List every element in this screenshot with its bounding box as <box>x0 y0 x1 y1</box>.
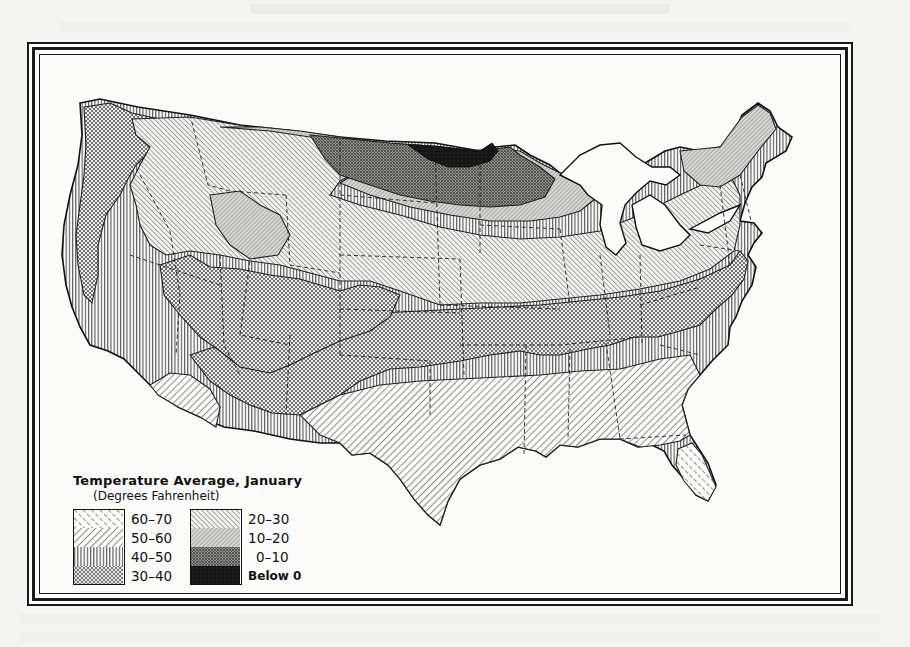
legend-item-30-40: 30–40 <box>73 566 172 585</box>
swatch-20-30-icon <box>190 509 242 528</box>
swatch-below-0-icon <box>190 566 242 585</box>
swatch-40-50-icon <box>73 547 125 566</box>
legend-title: Temperature Average, January <box>73 473 373 488</box>
map-panel: Temperature Average, January (Degrees Fa… <box>39 54 841 594</box>
swatch-0-10-icon <box>190 547 242 566</box>
swatch-30-40-icon <box>73 566 125 585</box>
legend-subtitle: (Degrees Fahrenheit) <box>93 489 373 503</box>
legend-item-20-30: 20–30 <box>190 509 301 528</box>
legend-item-below-0: Below 0 <box>190 566 301 585</box>
legend-item-10-20: 10–20 <box>190 528 301 547</box>
legend-item-60-70: 60–70 <box>73 509 172 528</box>
map-frame-border: Temperature Average, January (Degrees Fa… <box>32 47 848 601</box>
legend-label: 50–60 <box>131 530 172 546</box>
zone-60-70-florida <box>676 443 716 501</box>
legend-column-left: 60–70 50–60 40–50 30–40 <box>73 509 172 585</box>
legend-item-0-10: 0–10 <box>190 547 301 566</box>
legend-label: Below 0 <box>248 569 301 583</box>
swatch-60-70-icon <box>73 509 125 528</box>
legend-label: 40–50 <box>131 549 172 565</box>
swatch-10-20-icon <box>190 528 242 547</box>
swatch-50-60-icon <box>73 528 125 547</box>
legend-item-40-50: 40–50 <box>73 547 172 566</box>
legend-label: 30–40 <box>131 568 172 584</box>
map-legend: Temperature Average, January (Degrees Fa… <box>73 473 373 585</box>
map-frame: Temperature Average, January (Degrees Fa… <box>27 42 853 606</box>
legend-label: 10–20 <box>248 530 289 546</box>
legend-label: 0–10 <box>256 549 289 565</box>
legend-label: 20–30 <box>248 511 289 527</box>
legend-label: 60–70 <box>131 511 172 527</box>
legend-item-50-60: 50–60 <box>73 528 172 547</box>
legend-column-right: 20–30 10–20 0–10 Below 0 <box>190 509 301 585</box>
